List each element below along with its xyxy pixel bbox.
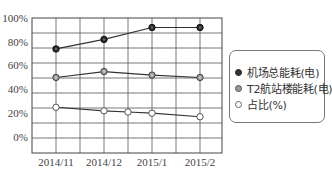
- y-axis: 100%80%60%40%20%0%: [2, 12, 28, 143]
- data-point-center: [151, 74, 153, 76]
- plot-frame: [32, 18, 222, 153]
- data-point-marker: [125, 109, 131, 115]
- hollow-circle-marker-icon: [235, 101, 242, 108]
- data-point-center: [55, 76, 57, 78]
- legend: 机场总能耗(电) T2航站楼能耗(电) 占比(%): [229, 50, 325, 123]
- dark-circle-marker-icon: [235, 69, 242, 76]
- legend-label: T2航站楼能耗(电): [247, 80, 332, 96]
- data-point-center: [103, 38, 105, 40]
- x-tick-label: 2014/11: [38, 156, 74, 168]
- legend-label: 机场总能耗(电): [247, 64, 319, 80]
- gray-circle-marker-icon: [235, 85, 242, 92]
- plot-grid: [32, 18, 222, 153]
- y-tick-label: 0%: [13, 131, 28, 143]
- legend-item-t2-terminal: T2航站楼能耗(电): [235, 80, 332, 96]
- data-point-center: [151, 26, 153, 28]
- x-tick-label: 2015/1: [137, 156, 168, 168]
- y-tick-label: 100%: [2, 12, 28, 24]
- x-axis: 2014/112014/122015/12015/2: [38, 156, 215, 168]
- data-point-marker: [101, 108, 107, 114]
- data-point-center: [199, 26, 201, 28]
- x-tick-label: 2015/2: [185, 156, 216, 168]
- legend-label: 占比(%): [247, 96, 287, 112]
- y-tick-label: 80%: [8, 36, 28, 48]
- data-point-marker: [149, 110, 155, 116]
- data-point-marker: [53, 104, 59, 110]
- legend-item-airport-total: 机场总能耗(电): [235, 64, 319, 80]
- y-tick-label: 60%: [8, 59, 28, 71]
- y-tick-label: 40%: [8, 83, 28, 95]
- legend-item-ratio: 占比(%): [235, 96, 287, 112]
- data-point-center: [199, 76, 201, 78]
- data-point-center: [103, 70, 105, 72]
- data-point-center: [55, 48, 57, 50]
- x-tick-label: 2014/12: [86, 156, 122, 168]
- y-tick-label: 20%: [8, 107, 28, 119]
- data-point-marker: [197, 114, 203, 120]
